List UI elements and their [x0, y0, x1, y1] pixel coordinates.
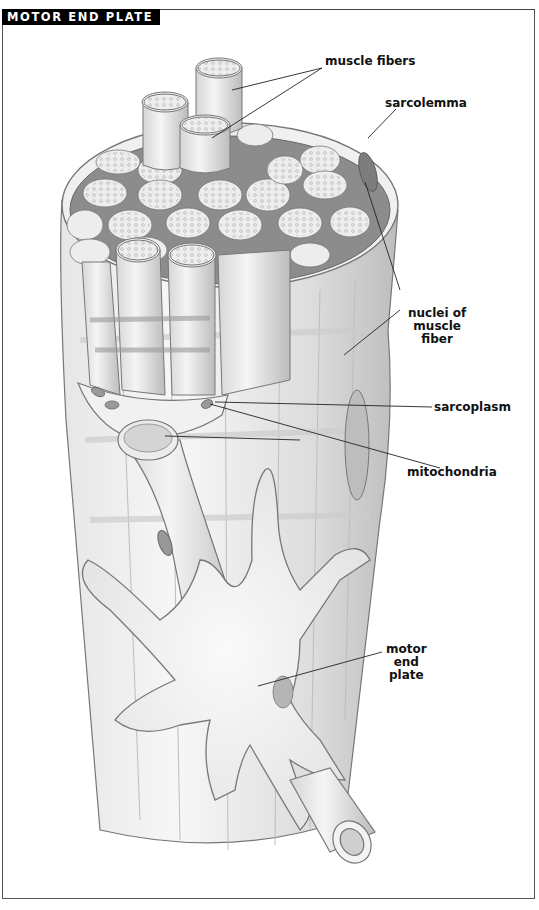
label-motor-end-plate-line-3: plate	[386, 669, 427, 682]
protruding-muscle-fibers	[142, 58, 242, 173]
label-mitochondria: mitochondria	[407, 466, 497, 479]
label-muscle-fibers: muscle fibers	[325, 55, 415, 68]
label-nuclei-line-3: fiber	[408, 333, 466, 346]
label-sarcolemma: sarcolemma	[385, 97, 467, 110]
muscle-fiber-illustration	[0, 0, 539, 910]
label-nuclei-of-muscle-fiber: nuclei of muscle fiber	[408, 307, 466, 346]
label-sarcoplasm: sarcoplasm	[434, 401, 511, 414]
label-motor-end-plate: motor end plate	[386, 643, 427, 682]
